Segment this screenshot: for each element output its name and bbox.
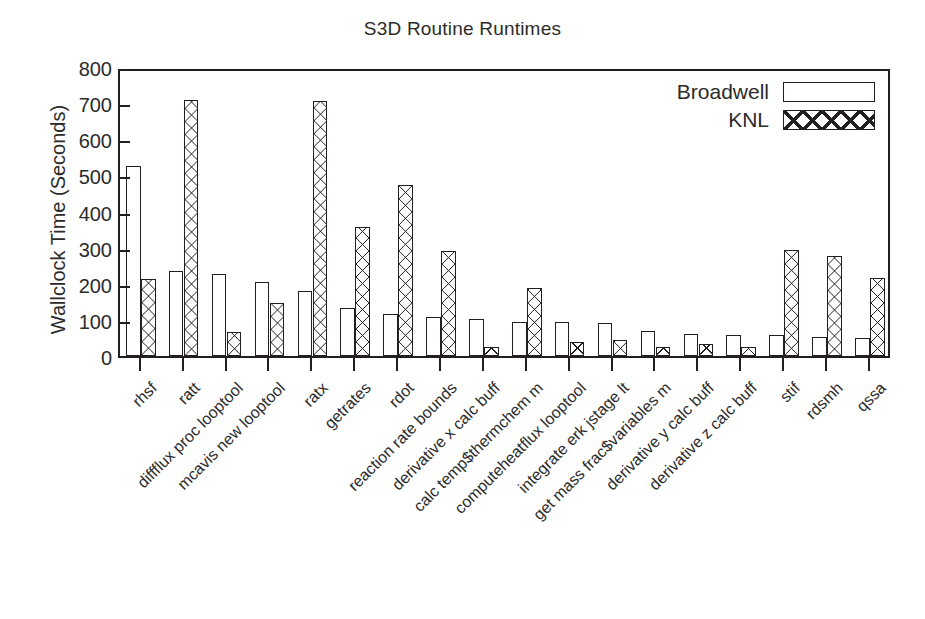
bar-broadwell[interactable]: [383, 314, 398, 356]
bar-broadwell[interactable]: [512, 322, 527, 356]
bar-knl[interactable]: [827, 256, 842, 356]
x-tick-label: rhsf: [129, 379, 161, 411]
x-tick-mark: [139, 358, 141, 371]
bar-broadwell[interactable]: [726, 335, 741, 356]
x-tick-label: qssa: [853, 379, 890, 416]
bar-group: [383, 71, 413, 356]
x-tick-label: ratt: [174, 379, 203, 408]
x-tick-mark: [225, 358, 227, 371]
x-tick-mark: [525, 358, 527, 371]
legend-item-knl[interactable]: KNL: [610, 106, 875, 134]
bar-knl[interactable]: [441, 251, 456, 356]
y-tick-label: 800: [50, 58, 112, 81]
bar-broadwell[interactable]: [769, 335, 784, 356]
x-tick-mark: [825, 358, 827, 371]
bar-broadwell[interactable]: [598, 323, 613, 356]
bar-knl[interactable]: [184, 100, 199, 356]
x-tick-mark: [482, 358, 484, 371]
bar-broadwell[interactable]: [684, 334, 699, 356]
y-tick-label: 600: [50, 130, 112, 153]
bar-knl[interactable]: [313, 101, 328, 356]
x-tick-mark: [353, 358, 355, 371]
x-tick-mark: [396, 358, 398, 371]
x-tick-label: stif: [777, 379, 804, 406]
bar-group: [469, 71, 499, 356]
bar-group: [512, 71, 542, 356]
bar-knl[interactable]: [784, 250, 799, 356]
bar-knl[interactable]: [355, 227, 370, 356]
bar-broadwell[interactable]: [126, 166, 141, 356]
crosshatch-rect-icon: [783, 110, 875, 130]
bar-knl[interactable]: [741, 347, 756, 356]
bar-group: [298, 71, 328, 356]
x-tick-mark: [696, 358, 698, 371]
x-tick-mark: [868, 358, 870, 371]
x-tick-mark: [739, 358, 741, 371]
bar-broadwell[interactable]: [426, 317, 441, 356]
bar-knl[interactable]: [570, 342, 585, 356]
legend-item-broadwell[interactable]: Broadwell: [610, 78, 875, 106]
bar-broadwell[interactable]: [469, 319, 484, 356]
y-tick-mark: [118, 250, 130, 252]
x-tick-mark: [653, 358, 655, 371]
bar-group: [212, 71, 242, 356]
bar-knl[interactable]: [141, 279, 156, 356]
legend-label-broadwell: Broadwell: [677, 80, 769, 104]
y-tick-mark: [118, 105, 130, 107]
bar-knl[interactable]: [227, 332, 242, 356]
bar-group: [169, 71, 199, 356]
bar-group: [126, 71, 156, 356]
legend-label-knl: KNL: [728, 108, 769, 132]
bar-group: [426, 71, 456, 356]
y-tick-label: 500: [50, 166, 112, 189]
x-tick-label: ratx: [300, 379, 332, 411]
bar-broadwell[interactable]: [812, 337, 827, 356]
x-tick-mark: [310, 358, 312, 371]
bar-broadwell[interactable]: [255, 282, 270, 356]
x-tick-label: rdsmh: [803, 379, 847, 423]
bar-knl[interactable]: [484, 347, 499, 356]
y-tick-mark: [118, 214, 130, 216]
y-tick-mark: [118, 286, 130, 288]
y-tick-label: 400: [50, 202, 112, 225]
bar-broadwell[interactable]: [555, 322, 570, 356]
x-tick-mark: [439, 358, 441, 371]
y-tick-label: 200: [50, 274, 112, 297]
y-tick-label: 300: [50, 238, 112, 261]
x-tick-label: getrates: [321, 379, 375, 433]
bar-group: [255, 71, 285, 356]
bar-knl[interactable]: [270, 303, 285, 356]
x-tick-label: rdot: [386, 379, 418, 411]
y-tick-label: 700: [50, 94, 112, 117]
bar-knl[interactable]: [613, 340, 628, 356]
y-tick-mark: [118, 177, 130, 179]
x-tick-mark: [611, 358, 613, 371]
chart-legend: Broadwell KNL: [600, 72, 885, 142]
bar-knl[interactable]: [699, 344, 714, 356]
x-tick-mark: [182, 358, 184, 371]
bar-broadwell[interactable]: [298, 291, 313, 356]
bar-broadwell[interactable]: [855, 338, 870, 356]
bar-group: [555, 71, 585, 356]
bar-knl[interactable]: [870, 278, 885, 356]
bar-knl[interactable]: [398, 185, 413, 356]
x-tick-mark: [267, 358, 269, 371]
chart-title: S3D Routine Runtimes: [0, 18, 925, 40]
y-tick-label: 100: [50, 310, 112, 333]
y-tick-label: 0: [50, 347, 112, 370]
bar-broadwell[interactable]: [169, 271, 184, 356]
y-tick-mark: [118, 141, 130, 143]
bar-broadwell[interactable]: [340, 308, 355, 356]
bar-broadwell[interactable]: [212, 274, 227, 356]
bar-broadwell[interactable]: [641, 331, 656, 356]
bar-group: [340, 71, 370, 356]
chart-figure: S3D Routine Runtimes Wallclock Time (Sec…: [0, 0, 925, 619]
bar-knl[interactable]: [656, 347, 671, 356]
x-tick-mark: [782, 358, 784, 371]
y-axis-tick-labels: 0100200300400500600700800: [38, 0, 112, 619]
empty-rect-icon: [783, 82, 875, 102]
bar-knl[interactable]: [527, 288, 542, 356]
x-tick-mark: [568, 358, 570, 371]
y-tick-mark: [118, 322, 130, 324]
